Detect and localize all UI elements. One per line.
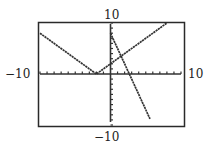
axes: [40, 23, 181, 125]
linear-graph: [111, 33, 151, 119]
plotted-graphs: [40, 23, 167, 119]
graph-screen: [0, 0, 204, 148]
absolute-value-graph: [40, 23, 167, 74]
